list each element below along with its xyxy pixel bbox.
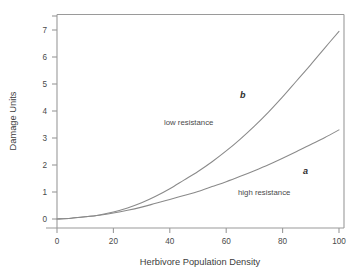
y-tick-3: 3 xyxy=(42,134,47,143)
x-tick-80: 80 xyxy=(278,237,288,246)
y-tick-2: 2 xyxy=(42,161,47,170)
x-tick-0: 0 xyxy=(55,237,60,246)
y-tick-4: 4 xyxy=(42,107,47,116)
y-tick-0: 0 xyxy=(42,215,47,224)
x-axis-title: Herbivore Population Density xyxy=(140,257,261,267)
high-resistance-label: high resistance xyxy=(238,188,290,197)
low-resistance-label: low resistance xyxy=(164,118,213,127)
curve-a-label: a xyxy=(303,166,308,176)
chart-figure: 7 6 5 4 3 2 1 0 0 20 40 60 80 100 xyxy=(0,0,361,277)
y-tick-5: 5 xyxy=(42,80,47,89)
x-tick-20: 20 xyxy=(109,237,119,246)
x-tick-100: 100 xyxy=(332,237,346,246)
curve-b-label: b xyxy=(240,90,246,100)
y-axis-title: Damage Units xyxy=(8,91,18,150)
y-tick-7: 7 xyxy=(42,26,47,35)
y-tick-1: 1 xyxy=(42,188,47,197)
x-tick-60: 60 xyxy=(222,237,232,246)
damage-vs-density-chart: 7 6 5 4 3 2 1 0 0 20 40 60 80 100 xyxy=(0,0,361,277)
y-tick-6: 6 xyxy=(42,53,47,62)
x-tick-40: 40 xyxy=(165,237,175,246)
